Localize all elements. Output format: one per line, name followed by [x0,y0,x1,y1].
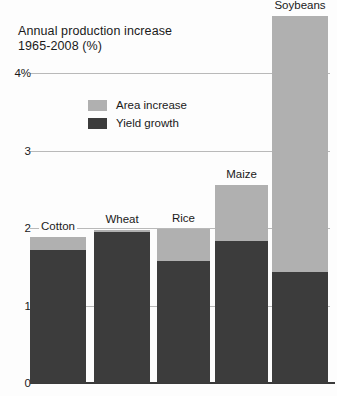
legend-swatch-area-increase [88,100,107,111]
legend-label-area-increase: Area increase [116,99,187,111]
legend-item-yield-growth: Yield growth [88,115,187,131]
plot-area: 01234% CottonWheatRiceMaizeSoybeans [30,0,337,396]
bar-label-wheat: Wheat [103,213,140,225]
bar-segment-area-increase[interactable] [30,237,86,249]
bar-segment-yield-growth[interactable] [157,261,210,383]
bar-soybeans[interactable] [272,16,328,383]
chart-container: Annual production increase 1965-2008 (%)… [0,0,337,396]
bar-segment-area-increase[interactable] [215,185,268,242]
bar-segment-area-increase[interactable] [272,16,328,273]
bar-label-cotton: Cotton [39,220,77,232]
bar-label-rice: Rice [170,212,197,224]
bar-segment-yield-growth[interactable] [94,232,150,383]
bar-cotton[interactable] [30,237,86,383]
bar-wheat[interactable] [94,230,150,383]
y-axis-tick-label: 2 [0,222,31,234]
bar-maize[interactable] [215,185,268,383]
bar-segment-area-increase[interactable] [157,229,210,262]
bar-segment-yield-growth[interactable] [215,241,268,383]
bar-rice[interactable] [157,229,210,383]
bar-segment-yield-growth[interactable] [30,250,86,383]
legend-item-area-increase: Area increase [88,97,187,113]
bar-label-maize: Maize [224,168,259,180]
chart-legend: Area increase Yield growth [88,97,187,133]
y-axis-tick-label: 3 [0,145,31,157]
y-axis-tick-label: 4% [0,67,31,79]
legend-label-yield-growth: Yield growth [116,117,179,129]
bar-label-soybeans: Soybeans [272,0,327,11]
legend-swatch-yield-growth [88,118,107,129]
bar-segment-yield-growth[interactable] [272,272,328,383]
y-axis-tick-label: 0 [0,377,31,389]
y-axis-tick-label: 1 [0,300,31,312]
